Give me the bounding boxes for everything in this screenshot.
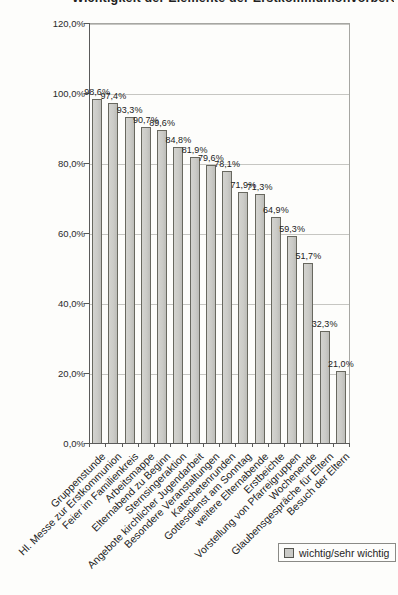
bar (287, 236, 297, 444)
legend-swatch-icon (284, 548, 294, 558)
bar-value-label: 78,1% (209, 159, 245, 169)
x-axis-tick-mark (333, 444, 334, 447)
x-axis-tick-mark (203, 444, 204, 447)
x-axis-tick-mark (89, 444, 90, 447)
bar (336, 371, 346, 445)
y-axis-tick-mark (84, 233, 89, 234)
legend-label: wichtig/sehr wichtig (299, 547, 389, 559)
legend: wichtig/sehr wichtig (278, 543, 396, 562)
bar-value-label: 64,9% (258, 205, 294, 215)
x-axis-tick-mark (284, 444, 285, 447)
bar (238, 192, 248, 444)
y-axis-tick-mark (84, 303, 89, 304)
bar-value-label: 32,3% (307, 319, 343, 329)
plot-area (89, 23, 350, 444)
x-axis-tick-mark (252, 444, 253, 447)
bar-value-label: 71,3% (242, 182, 278, 192)
y-axis-tick-label: 120,0% (38, 18, 85, 29)
x-axis-tick-mark (138, 444, 139, 447)
y-axis-tick-label: 60,0% (38, 228, 85, 239)
y-axis-tick-label: 20,0% (38, 368, 85, 379)
bar-value-label: 97,4% (95, 91, 131, 101)
x-axis-tick-mark (154, 444, 155, 447)
bar (92, 99, 102, 444)
x-axis-tick-mark (122, 444, 123, 447)
bar (157, 130, 167, 444)
x-axis-tick-mark (349, 444, 350, 447)
y-axis-tick-label: 100,0% (38, 88, 85, 99)
bar (173, 147, 183, 444)
chart-screen: Wichtigkeit der Elemente der Erstkommuni… (0, 0, 398, 595)
y-axis-tick-label: 40,0% (38, 298, 85, 309)
chart-title-text: Wichtigkeit der Elemente der Erstkommuni… (72, 0, 394, 5)
bar-value-label: 89,6% (144, 118, 180, 128)
x-axis-tick-mark (219, 444, 220, 447)
x-axis-tick-mark (317, 444, 318, 447)
bar-value-label: 21,0% (323, 359, 359, 369)
bar (125, 117, 135, 444)
bar (303, 263, 313, 444)
bar (190, 157, 200, 444)
y-axis-tick-mark (84, 23, 89, 24)
y-axis-tick-mark (84, 373, 89, 374)
bar-value-label: 51,7% (290, 251, 326, 261)
bar (141, 127, 151, 444)
bar (222, 171, 232, 444)
gridline (89, 24, 349, 25)
y-axis-tick-label: 0,0% (38, 438, 85, 449)
bar (255, 194, 265, 444)
x-axis-tick-mark (235, 444, 236, 447)
bar-value-label: 59,3% (274, 224, 310, 234)
x-axis-tick-mark (170, 444, 171, 447)
y-axis-tick-label: 80,0% (38, 158, 85, 169)
bar (206, 165, 216, 444)
x-axis-tick-mark (300, 444, 301, 447)
bar (271, 217, 281, 444)
bar-value-label: 84,8% (160, 135, 196, 145)
x-axis-tick-mark (105, 444, 106, 447)
y-axis-tick-mark (84, 163, 89, 164)
chart-title-clipped: Wichtigkeit der Elemente der Erstkommuni… (72, 0, 394, 5)
x-axis-tick-mark (187, 444, 188, 447)
bar (320, 331, 330, 444)
x-axis-tick-mark (268, 444, 269, 447)
bar (108, 103, 118, 444)
